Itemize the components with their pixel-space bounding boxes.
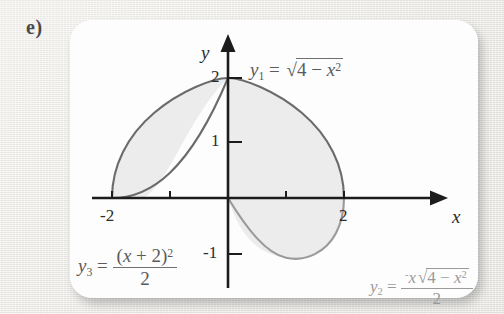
equation-y2-radicand: 4 − x2: [426, 268, 468, 287]
x-tick-label-2: 2: [339, 206, 348, 226]
y-tick-label-1: 1: [211, 131, 220, 151]
equation-y3-subscript: 3: [86, 266, 92, 279]
equation-y1-radicand: 4 − x2: [296, 58, 343, 81]
equation-y3-label: y3 = (x + 2)2 2: [78, 246, 177, 289]
part-label: e): [26, 16, 43, 39]
shaded-region-right: [228, 78, 344, 258]
equation-y2-num-x: x: [408, 268, 416, 287]
equation-y3-fraction: (x + 2)2 2: [113, 246, 178, 289]
equation-y1-label: y1 = √4 − x2: [250, 58, 343, 84]
equation-y1-equals: =: [269, 59, 280, 80]
equation-y1-radical-group: √4 − x2: [285, 58, 343, 81]
equation-y1-radicand-b-exp: 2: [335, 61, 341, 74]
figure-card: y x -2 2 2 1 -1 y1 = √4 − x2 y3 = (x + 2…: [70, 20, 478, 298]
equation-y2-radicand-b-exp: 2: [461, 269, 466, 280]
equation-y3-equals: =: [97, 255, 108, 276]
y-tick-label-2: 2: [211, 67, 220, 87]
equation-y1-subscript: 1: [258, 70, 264, 83]
equation-y3-numerator: (x + 2)2: [113, 246, 178, 268]
y-tick-label--1: -1: [203, 243, 217, 263]
equation-y3-denominator: 2: [113, 268, 178, 289]
equation-y2-fraction: -x√4 − x2 2: [401, 268, 473, 308]
equation-y1-radicand-b: x: [327, 59, 335, 80]
equation-y2-denominator: 2: [401, 289, 473, 308]
equation-y2-subscript: 2: [378, 286, 383, 297]
equation-y2-numerator: -x√4 − x2: [401, 268, 473, 289]
equation-y2-radical-group: √4 − x2: [416, 268, 469, 287]
equation-y2-equals: =: [387, 277, 397, 296]
equation-y3-num-two: 2: [152, 245, 162, 266]
x-axis-label: x: [452, 206, 460, 228]
equation-y2-label: y2 = -x√4 − x2 2: [370, 268, 473, 308]
equation-y2-minus: −: [440, 268, 450, 287]
equation-y3-num-plus: +: [136, 245, 147, 266]
equation-y2-radicand-a: 4: [427, 268, 436, 287]
x-axis-arrow: [430, 191, 448, 206]
y-axis-arrow: [221, 34, 236, 52]
equation-y1-radicand-a: 4: [297, 59, 307, 80]
equation-y1-minus: −: [311, 59, 322, 80]
equation-y2-var: y: [370, 277, 378, 296]
equation-y3-num-exp: 2: [167, 247, 173, 260]
y-axis-label: y: [201, 42, 209, 64]
equation-y3-num-x: x: [123, 245, 131, 266]
x-tick-label--2: -2: [100, 206, 114, 226]
